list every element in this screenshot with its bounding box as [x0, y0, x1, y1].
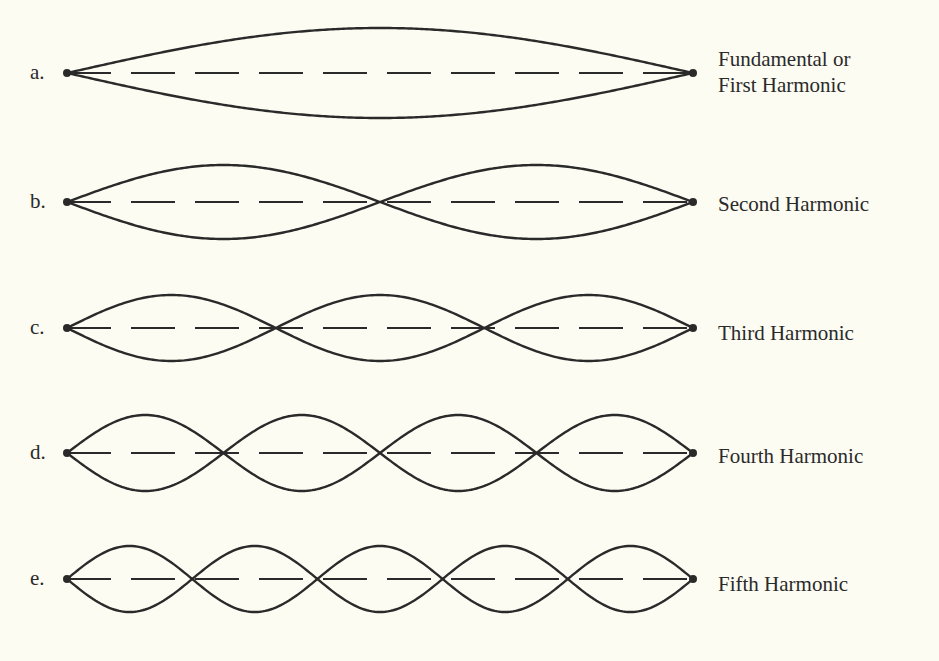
row-d-title: Fourth Harmonic [718, 443, 863, 469]
wave-envelope-upper [67, 28, 693, 73]
fixed-end-left-dot [63, 198, 71, 206]
row-d-letter: d. [30, 442, 46, 463]
row-d-wave [63, 415, 697, 491]
fixed-end-right-dot [689, 324, 697, 332]
wave-envelope-lower [67, 73, 693, 118]
row-c-letter: c. [30, 317, 45, 338]
row-b-title: Second Harmonic [718, 191, 869, 217]
fixed-end-left-dot [63, 449, 71, 457]
fixed-end-left-dot [63, 69, 71, 77]
row-c-wave [63, 295, 697, 361]
row-c-title: Third Harmonic [718, 320, 854, 346]
row-b-wave [63, 165, 697, 239]
row-a-wave [63, 28, 697, 118]
fixed-end-left-dot [63, 324, 71, 332]
row-e-title: Fifth Harmonic [718, 571, 848, 597]
row-b-letter: b. [30, 191, 46, 212]
row-a-letter: a. [30, 62, 45, 83]
fixed-end-left-dot [63, 575, 71, 583]
fixed-end-right-dot [689, 575, 697, 583]
fixed-end-right-dot [689, 198, 697, 206]
fixed-end-right-dot [689, 449, 697, 457]
fixed-end-right-dot [689, 69, 697, 77]
row-e-letter: e. [30, 568, 45, 589]
row-a-title: Fundamental or First Harmonic [718, 46, 850, 99]
row-e-wave [63, 546, 697, 612]
